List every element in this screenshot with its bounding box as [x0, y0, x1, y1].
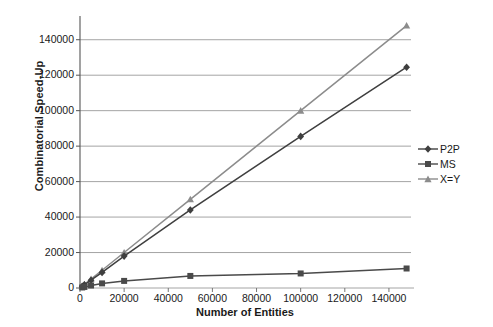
x-axis-title: Number of Entities [80, 306, 410, 318]
legend-item-xy[interactable]: X=Y [418, 171, 460, 186]
legend-label-p2p: P2P [440, 143, 460, 155]
legend-label-ms: MS [440, 158, 456, 170]
y-tick-label: 80000 [22, 139, 74, 151]
x-tick-label: 140000 [362, 292, 416, 304]
y-tick-label: 60000 [22, 175, 74, 187]
legend-label-xy: X=Y [440, 173, 460, 185]
y-tick-label: 100000 [22, 104, 74, 116]
chart-legend: P2P MS X=Y [418, 141, 460, 186]
y-tick-label: 120000 [22, 68, 74, 80]
y-tick-label: 20000 [22, 246, 74, 258]
y-tick-label: 140000 [22, 33, 74, 45]
y-tick-label: 40000 [22, 210, 74, 222]
chart-container: Combinatorial Speed-Up Number of Entitie… [0, 0, 493, 327]
legend-item-p2p[interactable]: P2P [418, 141, 460, 156]
diamond-marker-icon [418, 143, 438, 155]
legend-item-ms[interactable]: MS [418, 156, 460, 171]
square-marker-icon [418, 158, 438, 170]
triangle-marker-icon [418, 173, 438, 185]
